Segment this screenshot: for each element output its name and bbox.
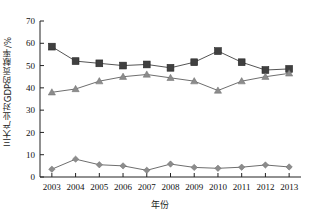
- x-tick-label: 2008: [162, 182, 181, 192]
- data-point-marker: [191, 59, 198, 66]
- series-1: [48, 43, 292, 73]
- y-tick-label: 70: [26, 16, 36, 26]
- x-tick-label: 2005: [90, 182, 109, 192]
- y-tick-label: 40: [26, 83, 36, 93]
- data-point-marker: [120, 62, 127, 69]
- x-tick-label: 2013: [280, 182, 299, 192]
- data-point-marker: [96, 162, 102, 168]
- x-tick-label: 2011: [233, 182, 251, 192]
- y-tick-label: 10: [26, 150, 36, 160]
- x-tick-label: 2006: [114, 182, 133, 192]
- data-point-marker: [238, 59, 245, 66]
- line-chart-plot: 010203040506070 200320042005200620072008…: [0, 0, 319, 219]
- data-point-marker: [191, 164, 197, 170]
- chart-container: 三大产业对GDP的贡献率/% 010203040506070 200320042…: [0, 0, 319, 219]
- data-point-marker: [286, 164, 292, 170]
- x-tick-label: 2012: [256, 182, 274, 192]
- x-tick-labels: 2003200420052006200720082009201020112012…: [43, 182, 299, 192]
- x-tick-label: 2009: [185, 182, 204, 192]
- y-tick-label: 0: [31, 172, 36, 182]
- y-tick-label: 60: [26, 38, 36, 48]
- data-point-marker: [167, 161, 173, 167]
- data-point-marker: [120, 163, 126, 169]
- data-point-marker: [96, 60, 103, 67]
- data-point-marker: [215, 165, 221, 171]
- series-3: [49, 156, 293, 174]
- x-tick-label: 2004: [67, 182, 86, 192]
- data-point-marker: [238, 164, 244, 170]
- data-point-marker: [48, 43, 55, 50]
- data-point-marker: [167, 64, 174, 71]
- data-point-marker: [72, 156, 78, 162]
- x-tick-label: 2007: [138, 182, 157, 192]
- chart-series-layer: [48, 43, 292, 173]
- y-tick-label: 50: [26, 61, 36, 71]
- data-point-marker: [214, 87, 221, 93]
- y-tick-labels: 010203040506070: [26, 16, 36, 182]
- y-tick-label: 20: [26, 128, 36, 138]
- y-tick-label: 30: [26, 105, 36, 115]
- chart-axes: [40, 21, 301, 177]
- data-point-marker: [144, 167, 150, 173]
- x-tick-label: 2003: [43, 182, 62, 192]
- x-tick-label: 2010: [209, 182, 228, 192]
- data-point-marker: [262, 162, 268, 168]
- data-point-marker: [143, 61, 150, 68]
- data-point-marker: [72, 58, 79, 65]
- data-point-marker: [262, 67, 269, 74]
- data-point-marker: [49, 166, 55, 172]
- data-point-marker: [215, 48, 222, 55]
- x-axis-label: 年份: [0, 198, 319, 211]
- series-2: [48, 70, 292, 95]
- data-point-marker: [143, 71, 150, 77]
